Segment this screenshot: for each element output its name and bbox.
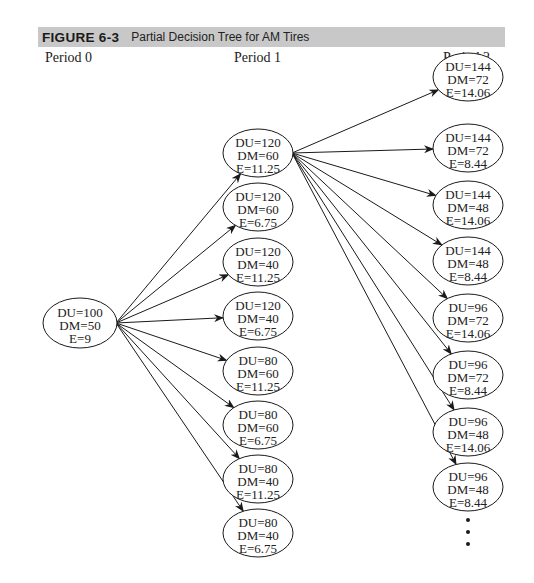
edge-root-to-p1-5 [116, 323, 234, 408]
node-period2-3: DU=144DM=48E=8.44 [433, 237, 503, 285]
edge-p1-0-to-p2-6 [292, 153, 454, 410]
node-period2-2: DU=144DM=48E=14.06 [433, 181, 503, 229]
node-period1-3: DU=120DM=40E=6.75 [223, 292, 293, 340]
node-text-line: E=6.75 [239, 215, 277, 230]
node-text-line: E=6.75 [239, 433, 277, 448]
node-text-line: E=6.75 [239, 541, 277, 556]
node-root: DU=100DM=50E=9 [43, 298, 117, 348]
node-period1-4: DU=80DM=60E=11.25 [223, 347, 293, 395]
edge-p1-0-to-p2-2 [292, 153, 436, 196]
node-text-line: E=6.75 [239, 324, 277, 339]
edge-p1-0-to-p2-0 [292, 90, 438, 153]
node-text-line: E=14.06 [446, 440, 491, 455]
node-text-line: E=14.06 [446, 326, 491, 341]
edge-root-to-p1-0 [116, 174, 241, 323]
tree-nodes: DU=100DM=50E=9DU=120DM=60E=11.25DU=120DM… [43, 53, 503, 557]
node-period2-0: DU=144DM=72E=14.06 [433, 53, 503, 101]
node-text-line: E=11.25 [236, 487, 280, 502]
decision-tree: DU=100DM=50E=9DU=120DM=60E=11.25DU=120DM… [0, 0, 534, 583]
edge-root-to-p1-1 [116, 225, 235, 323]
edge-root-to-p1-2 [116, 275, 228, 323]
node-period1-7: DU=80DM=40E=6.75 [223, 509, 293, 557]
node-period1-0: DU=120DM=60E=11.25 [223, 129, 293, 177]
edge-p1-0-to-p2-3 [292, 153, 442, 245]
edge-root-to-p1-3 [116, 318, 223, 323]
node-period1-6: DU=80DM=40E=11.25 [223, 455, 293, 503]
node-period2-6: DU=96DM=48E=14.06 [433, 408, 503, 456]
node-text-line: E=8.44 [449, 495, 488, 510]
node-period2-5: DU=96DM=72E=8.44 [433, 351, 503, 399]
node-period1-1: DU=120DM=60E=6.75 [223, 183, 293, 231]
node-text-line: E=11.25 [236, 161, 280, 176]
node-period2-7: DU=96DM=48E=8.44 [433, 463, 503, 511]
edge-p1-0-to-p2-5 [292, 153, 451, 354]
node-text-line: E=14.06 [446, 85, 491, 100]
node-text-line: E=11.25 [236, 270, 280, 285]
node-text-line: E=8.44 [449, 269, 488, 284]
continuation-dots [466, 518, 470, 546]
edge-p1-0-to-p2-7 [292, 153, 456, 464]
node-text-line: E=8.44 [449, 383, 488, 398]
node-text-line: E=14.06 [446, 213, 491, 228]
node-period1-5: DU=80DM=60E=6.75 [223, 401, 293, 449]
node-text-line: E=9 [69, 331, 91, 346]
node-text-line: E=8.44 [449, 156, 488, 171]
node-period2-1: DU=144DM=72E=8.44 [433, 124, 503, 172]
node-period2-4: DU=96DM=72E=14.06 [433, 294, 503, 342]
node-text-line: E=11.25 [236, 379, 280, 394]
node-period1-2: DU=120DM=40E=11.25 [223, 238, 293, 286]
edge-p1-0-to-p2-1 [292, 149, 433, 153]
